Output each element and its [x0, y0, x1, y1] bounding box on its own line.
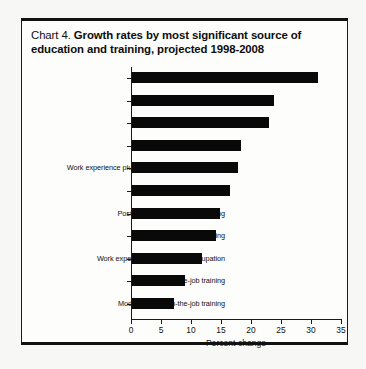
bar-row: Master's degree [131, 136, 341, 157]
x-axis-tick-label: 10 [178, 325, 204, 335]
bar-row: Work experience plus bachelor's degree o… [131, 158, 341, 179]
x-axis-tick-label: 30 [298, 325, 324, 335]
bar [132, 140, 241, 151]
bar-row: Short-term on-the-job training [131, 226, 341, 247]
bar-row: First professional degree [131, 181, 341, 202]
bar-row: Associate degree [131, 68, 341, 89]
bar [132, 275, 185, 286]
bar-row: Doctoral degree [131, 113, 341, 134]
x-axis-tick-label: 0 [118, 325, 144, 335]
bar-row: Postsecondary vocational training [131, 204, 341, 225]
bar [132, 298, 174, 309]
chart-title: Chart 4. Growth rates by most significan… [31, 28, 339, 56]
bar [132, 230, 216, 241]
bar [132, 208, 220, 219]
x-axis-tick [191, 320, 192, 324]
bar [132, 185, 230, 196]
x-axis-tick [251, 320, 252, 324]
bar [132, 117, 269, 128]
x-axis-tick-label: 20 [238, 325, 264, 335]
x-axis-tick-label: 35 [328, 325, 354, 335]
x-axis-tick [311, 320, 312, 324]
bar [132, 95, 274, 106]
screenshot-page: Chart 4. Growth rates by most significan… [0, 0, 366, 369]
bar-row: Moderate-term on-the-job training [131, 294, 341, 315]
x-axis-tick-label: 15 [208, 325, 234, 335]
chart-figure-box: Chart 4. Growth rates by most significan… [21, 18, 348, 345]
bar [132, 72, 318, 83]
bar [132, 162, 238, 173]
x-axis-tick [131, 320, 132, 324]
x-axis-tick [281, 320, 282, 324]
x-axis-tick [341, 320, 342, 324]
x-axis-title: Percent change [131, 338, 341, 348]
bar-row: Bachelor's degree [131, 91, 341, 112]
plot-area: Associate degreeBachelor's degreeDoctora… [131, 67, 341, 319]
x-axis-tick-label: 25 [268, 325, 294, 335]
chart-title-prefix: Chart 4. [31, 29, 74, 41]
bar-row: Work experience in a related occupation [131, 249, 341, 270]
bar [132, 253, 202, 264]
x-axis-tick [161, 320, 162, 324]
bar-row: Long-term on-the-job training [131, 271, 341, 292]
x-axis-tick [221, 320, 222, 324]
x-axis-tick-label: 5 [148, 325, 174, 335]
